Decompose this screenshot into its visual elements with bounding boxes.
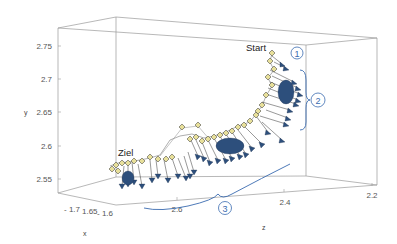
y-tick-label: 2.7: [41, 75, 53, 84]
callout-3: 3: [144, 164, 290, 215]
plot-box: [58, 17, 377, 205]
y-axis-ticks: [58, 46, 61, 179]
goal-label: Ziel: [118, 147, 133, 158]
chart-3d: 2.75 2.7 2.65 2.6 2.55 y - 1.7 1.65 - 1.…: [0, 0, 397, 244]
z-tick-label: 2.4: [279, 198, 291, 207]
vector-heads: [119, 62, 303, 189]
z-axis-label: z: [262, 224, 266, 231]
start-label: Start: [246, 42, 266, 53]
x-axis-label: x: [83, 230, 87, 237]
y-tick-label: 2.75: [36, 42, 52, 51]
x-tick-label: - 1.6: [97, 209, 114, 218]
trajectory-line: [110, 53, 274, 166]
y-tick-label: 2.65: [36, 108, 52, 117]
x-tick-label: - 1.7: [64, 205, 81, 214]
callout-2: 2: [300, 70, 325, 130]
y-tick-label: 2.55: [36, 175, 52, 184]
svg-text:2: 2: [315, 96, 320, 106]
z-tick-label: 2.2: [366, 191, 378, 200]
z-axis-ticks: [177, 183, 372, 200]
brace-icon: [144, 164, 290, 210]
callout-1: 1: [291, 47, 303, 59]
z-tick-label: 2.6: [171, 205, 183, 214]
y-tick-label: 2.6: [41, 142, 53, 151]
brace-icon: [300, 70, 310, 130]
svg-text:1: 1: [294, 49, 299, 59]
x-tick-label: 1.65: [82, 207, 98, 216]
y-axis-label: y: [24, 109, 28, 117]
svg-text:3: 3: [222, 204, 227, 214]
direction-vectors: [122, 56, 300, 186]
trajectory-markers: [109, 50, 277, 174]
